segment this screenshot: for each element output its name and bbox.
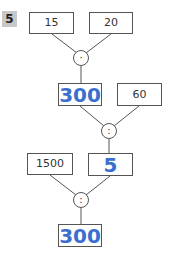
multiply-operator-icon: · — [73, 50, 89, 66]
answer-box-300[interactable]: 300 — [58, 83, 102, 106]
answer-box-final-300[interactable]: 300 — [58, 224, 102, 247]
input-box-20: 20 — [89, 12, 133, 34]
input-box-60: 60 — [117, 83, 162, 106]
input-box-15: 15 — [29, 12, 74, 34]
answer-box-5[interactable]: 5 — [88, 153, 133, 176]
divide-operator-icon: : — [73, 192, 89, 208]
input-box-1500: 1500 — [27, 153, 73, 175]
divide-operator-icon: : — [101, 123, 117, 139]
